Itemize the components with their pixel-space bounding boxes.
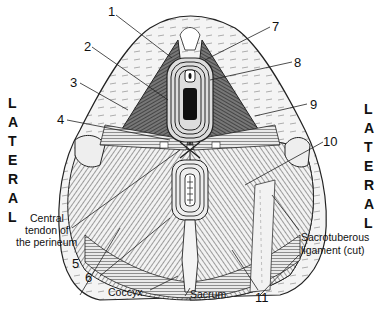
svg-text:T: T [8, 133, 17, 149]
svg-text:T: T [364, 139, 373, 155]
svg-text:E: E [364, 158, 373, 174]
callout-11: 11 [255, 290, 269, 305]
svg-text:E: E [8, 152, 17, 168]
svg-text:A: A [8, 190, 18, 206]
callout-9: 9 [310, 97, 317, 112]
svg-text:L: L [364, 215, 373, 231]
callout-8: 8 [294, 55, 301, 70]
svg-text:L: L [8, 209, 17, 225]
label-sacrum: Sacrum [190, 288, 226, 300]
pelvic-floor-diagram: 1 2 3 4 5 6 7 8 9 10 11 Central tendon o… [0, 0, 382, 314]
svg-text:the perineum: the perineum [16, 236, 78, 248]
label-central-tendon: Central [30, 212, 64, 224]
svg-text:R: R [8, 171, 18, 187]
anal-sphincter [172, 160, 208, 220]
svg-text:A: A [364, 196, 374, 212]
callout-7: 7 [272, 19, 279, 34]
label-sacrotuberous-ligament: Sacrotuberous [301, 231, 369, 243]
svg-text:ligament (cut): ligament (cut) [301, 244, 365, 256]
svg-text:R: R [364, 177, 374, 193]
callout-3: 3 [70, 75, 77, 90]
ischial-tuberosity-left [75, 135, 105, 167]
lateral-label-right: L A T E R A L [364, 101, 374, 231]
callout-2: 2 [84, 39, 91, 54]
label-coccyx: Coccyx [108, 286, 143, 298]
callout-6: 6 [85, 270, 92, 285]
vaginal-orifice [183, 88, 197, 120]
lateral-label-left: L A T E R A L [8, 95, 18, 225]
svg-text:L: L [8, 95, 17, 111]
svg-text:tendon of: tendon of [25, 224, 69, 236]
urogenital-hiatus [167, 58, 213, 142]
svg-text:A: A [8, 114, 18, 130]
callout-4: 4 [57, 112, 64, 127]
callout-10: 10 [323, 134, 337, 149]
svg-text:L: L [364, 101, 373, 117]
callout-5: 5 [72, 256, 79, 271]
callout-1: 1 [108, 4, 115, 19]
anococcygeal-body [182, 220, 198, 292]
svg-text:A: A [364, 120, 374, 136]
